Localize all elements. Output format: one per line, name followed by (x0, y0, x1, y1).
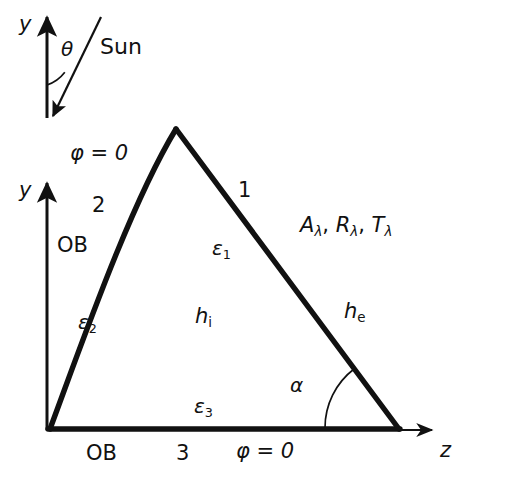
main-diagram (47, 129, 432, 430)
eps-1-subscript: 1 (223, 247, 231, 262)
optical-separator-2: , (358, 213, 371, 237)
reflectance-symbol: R (336, 213, 351, 237)
ob-bottom-label: OB (86, 443, 117, 464)
optical-properties-label: Aλ, Rλ, Tλ (300, 215, 392, 236)
alpha-angle-label: α (290, 375, 303, 395)
alpha-angle-arc (325, 369, 354, 428)
eps-symbol: ε (78, 310, 89, 334)
sun-incidence-inset (47, 17, 101, 118)
absorptance-symbol: A (300, 213, 314, 237)
emissivity-1-label: ε1 (212, 238, 231, 258)
eps-symbol: ε (194, 394, 205, 418)
lambda-subscript-a: λ (314, 224, 322, 239)
external-subscript: e (357, 310, 365, 325)
surface-1-straight-edge (176, 129, 399, 429)
sun-ray-line (53, 17, 101, 116)
inset-y-axis-label: y (19, 14, 31, 35)
emissivity-3-label: ε3 (194, 396, 213, 416)
optical-separator-1: , (322, 213, 335, 237)
figure-canvas: y θ Sun φ = 0 y 2 OB ε2 1 ε1 Aλ, Rλ, Tλ … (0, 0, 519, 492)
z-axis-label: z (440, 440, 451, 461)
phi-zero-top-label: φ = 0 (70, 143, 128, 164)
surface-2-number-label: 2 (92, 195, 105, 216)
surface-1-number-label: 1 (238, 180, 251, 201)
internal-heat-coefficient-label: hi (195, 306, 212, 327)
lambda-subscript-r: λ (350, 224, 358, 239)
transmittance-symbol: T (372, 213, 385, 237)
surface-3-number-label: 3 (176, 443, 189, 464)
lambda-subscript-t: λ (384, 224, 392, 239)
internal-subscript: i (208, 315, 212, 330)
h-symbol: h (344, 299, 357, 323)
external-heat-coefficient-label: he (344, 301, 366, 322)
emissivity-2-label: ε2 (78, 312, 97, 332)
theta-angle-arc (47, 72, 65, 85)
eps-3-subscript: 3 (205, 405, 213, 420)
surface-2-curved-edge (50, 129, 176, 429)
sun-label: Sun (100, 36, 142, 58)
eps-2-subscript: 2 (89, 321, 97, 336)
y-axis-label: y (19, 180, 31, 201)
eps-symbol: ε (212, 236, 223, 260)
h-symbol: h (195, 304, 208, 328)
theta-angle-label: θ (61, 39, 73, 59)
ob-left-label: OB (57, 235, 88, 256)
phi-zero-bottom-label: φ = 0 (236, 441, 294, 462)
